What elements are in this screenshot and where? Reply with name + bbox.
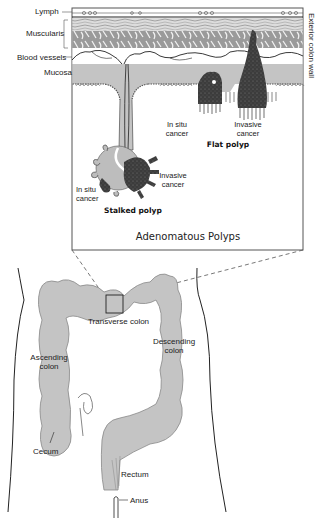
transverse-colon-label: Transverse colon <box>88 317 149 326</box>
descending-colon-label: Descending <box>153 337 195 346</box>
inset-title: Adenomatous Polyps <box>136 231 240 242</box>
colon-illustration <box>38 274 183 518</box>
stalked-polyp-label: Stalked polyp <box>104 206 162 215</box>
layer-labels: Lymph Muscularis Blood vessels Mucosa <box>17 7 73 77</box>
colon-polyp-diagram: In situ cancer Invasive cancer Flat poly… <box>0 0 328 525</box>
inset-panel: In situ cancer Invasive cancer Flat poly… <box>72 8 304 250</box>
ascending-colon-label-2: colon <box>39 362 58 371</box>
exterior-colon-wall-label: Exterior colon wall <box>307 13 316 78</box>
muscularis-label: Muscularis <box>26 29 64 38</box>
zoom-indicator-lines <box>72 250 303 297</box>
descending-colon-label-2: colon <box>164 346 183 355</box>
mucosa-label: Mucosa <box>44 68 73 77</box>
ascending-colon-label: Ascending <box>30 353 67 362</box>
flat-in-situ-label: In situ <box>167 120 187 129</box>
blood-vessels-label: Blood vessels <box>17 53 66 62</box>
muscularis-layer <box>73 18 303 48</box>
stalked-invasive-label-2: cancer <box>162 180 185 189</box>
cecum-label: Cecum <box>33 447 59 456</box>
lymph-label: Lymph <box>35 7 59 16</box>
stalked-in-situ-label: In situ <box>76 185 96 194</box>
flat-polyp-label: Flat polyp <box>207 140 250 149</box>
flat-invasive-label: Invasive <box>234 120 262 129</box>
flat-in-situ-label-2: cancer <box>166 129 189 138</box>
flat-invasive-label-2: cancer <box>237 129 260 138</box>
stalked-invasive-label: Invasive <box>159 171 187 180</box>
blood-vessel-layer <box>72 48 303 64</box>
stalked-in-situ-label-2: cancer <box>76 194 99 203</box>
anus-label: Anus <box>130 496 148 505</box>
rectum-label: Rectum <box>121 470 149 479</box>
